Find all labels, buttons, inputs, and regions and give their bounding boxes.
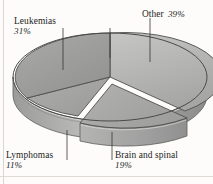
label-other-name: Other [142,9,164,19]
label-leukemias: Leukemias 31% [14,17,56,36]
label-lymphomas-percent: 11% [6,161,53,171]
label-brain-and-spinal: Brain and spinal 19% [115,151,178,170]
label-brain-and-spinal-percent: 19% [115,161,178,171]
label-other: Other 39% [142,4,185,21]
label-other-percent: 39% [168,9,185,19]
pie-chart-figure: Other 39% Leukemias 31% Lymphomas 11% Br… [0,0,213,184]
pie-body [13,32,213,146]
label-leukemias-percent: 31% [14,27,56,37]
label-lymphomas: Lymphomas 11% [6,151,53,170]
